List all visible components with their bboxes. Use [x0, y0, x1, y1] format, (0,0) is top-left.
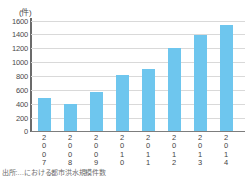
digit: 7	[42, 159, 46, 167]
x-tick-label-2013: 2 0 1 3	[192, 134, 208, 167]
bar-2010	[116, 75, 129, 131]
digit: 1	[146, 159, 150, 167]
bar-2011	[142, 69, 155, 131]
plot-area	[31, 21, 245, 131]
x-tick-label-2010: 2 0 1 0	[114, 134, 130, 167]
x-tick-label-2008: 2 0 0 8	[62, 134, 78, 167]
digit: 3	[198, 159, 202, 167]
y-tick-label: 800	[16, 72, 28, 81]
y-axis-tick-labels: 1600 1400 1200 1000 800 600 400 200 0	[0, 0, 31, 176]
y-tick-label: 600	[16, 86, 28, 95]
bar-2012	[168, 48, 181, 131]
source-caption: 出所:…における都市洪水規模件数	[2, 167, 106, 176]
bar-2014	[220, 25, 233, 131]
x-tick-label-2012: 2 0 1 2	[166, 134, 182, 167]
y-tick-label: 200	[16, 114, 28, 123]
x-tick-label-2009: 2 0 0 9	[88, 134, 104, 167]
bar-chart-figure: (件) 1600 1400 1200 1000 800 600 400 200 …	[0, 0, 251, 176]
y-tick-label: 1600	[12, 17, 28, 26]
bar-2013	[194, 35, 207, 131]
digit: 4	[224, 159, 228, 167]
digit: 0	[120, 159, 124, 167]
y-tick-label: 0	[24, 127, 28, 136]
bar-2008	[64, 104, 77, 132]
digit: 2	[172, 159, 176, 167]
x-tick-label-2007: 2 0 0 7	[36, 134, 52, 167]
y-tick-label: 1400	[12, 30, 28, 39]
bar-2007	[38, 98, 51, 131]
x-axis-baseline	[31, 131, 245, 132]
x-tick-label-2014: 2 0 1 4	[218, 134, 234, 167]
bar-2009	[90, 92, 103, 131]
bar-series	[31, 21, 245, 131]
y-tick-label: 1000	[12, 58, 28, 67]
y-tick-label: 1200	[12, 44, 28, 53]
x-tick-label-2011: 2 0 1 1	[140, 134, 156, 167]
y-tick-label: 400	[16, 100, 28, 109]
digit: 9	[94, 159, 98, 167]
digit: 8	[68, 159, 72, 167]
